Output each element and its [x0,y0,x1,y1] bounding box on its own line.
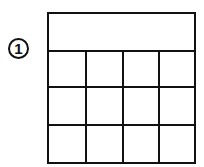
column-divider-2 [122,50,124,162]
column-divider-1 [85,50,87,162]
grid-table [47,12,196,164]
merged-header-cell [49,14,194,52]
column-divider-3 [158,50,160,162]
number-marker-circle: 1 [8,38,29,59]
